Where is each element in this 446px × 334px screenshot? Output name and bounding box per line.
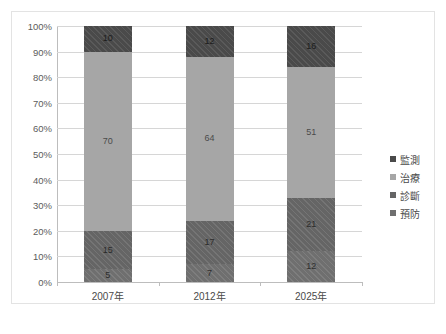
legend-entry[interactable]: 監測 [390,150,434,168]
bar-segment-value-label: 16 [306,42,316,51]
chart-frame: 100%90%80%70%60%50%40%30%20%10%0% 515701… [11,11,435,304]
bar-segment[interactable]: 64 [186,57,234,221]
bar-segment-value-label: 64 [204,134,214,143]
bar-segment[interactable]: 12 [186,26,234,57]
y-axis-tick-label: 80% [33,72,52,83]
plot-area: 100%90%80%70%60%50%40%30%20%10%0% 515701… [57,26,362,282]
bar-segment-value-label: 5 [105,271,110,280]
y-axis-tick-label: 20% [33,225,52,236]
bar-segment[interactable]: 12 [287,251,335,282]
x-axis-tick-label: 2007年 [92,288,124,303]
bar-segment[interactable]: 10 [84,26,132,52]
x-axis-tick-label: 2025年 [295,288,327,303]
bar-segment-value-label: 17 [204,238,214,247]
y-axis-tick-label: 60% [33,123,52,134]
x-axis-tick [362,282,363,286]
y-axis-tick-label: 10% [33,251,52,262]
legend-entry[interactable]: 治療 [390,168,434,186]
bar-segment-value-label: 12 [204,37,214,46]
bar-segment[interactable]: 16 [287,26,335,67]
bar-segment[interactable]: 21 [287,198,335,252]
legend-swatch-icon [390,156,396,162]
chart-legend: 監測治療診斷預防 [390,150,434,222]
bar-segment[interactable]: 7 [186,264,234,282]
legend-swatch-icon [390,192,396,198]
y-axis-tick-label: 70% [33,97,52,108]
bar-segment-value-label: 15 [103,246,113,255]
bar-segment[interactable]: 5 [84,269,132,282]
x-axis-tick [260,282,261,286]
figure-caption [0,322,446,334]
x-axis-line [57,282,362,283]
bar-segment[interactable]: 15 [84,231,132,269]
y-axis-tick-label: 40% [33,174,52,185]
legend-entry[interactable]: 診斷 [390,186,434,204]
legend-label: 診斷 [400,188,420,203]
legend-label: 監測 [400,152,420,167]
y-axis-tick-label: 90% [33,46,52,57]
bar-segment[interactable]: 17 [186,221,234,265]
bar-column[interactable]: 5157010 [84,26,132,282]
bar-segment-value-label: 21 [306,220,316,229]
bar-segment-value-label: 12 [306,262,316,271]
legend-entry[interactable]: 預防 [390,204,434,222]
bar-segment-value-label: 7 [207,269,212,278]
y-axis-tick-label: 0% [38,277,52,288]
legend-label: 治療 [400,170,420,185]
bar-column[interactable]: 12215116 [287,26,335,282]
bar-segment-value-label: 70 [103,137,113,146]
y-axis-tick-label: 30% [33,200,52,211]
y-axis-tick-label: 100% [28,21,52,32]
bar-column[interactable]: 7176412 [186,26,234,282]
y-axis-tick-label: 50% [33,149,52,160]
bar-segment-value-label: 51 [306,128,316,137]
legend-swatch-icon [390,174,396,180]
bar-segment[interactable]: 51 [287,67,335,198]
x-axis-tick-label: 2012年 [193,288,225,303]
legend-label: 預防 [400,206,420,221]
x-axis-tick [159,282,160,286]
legend-swatch-icon [390,210,396,216]
bar-segment[interactable]: 70 [84,52,132,231]
bar-segment-value-label: 10 [103,34,113,43]
x-axis-tick [57,282,58,286]
